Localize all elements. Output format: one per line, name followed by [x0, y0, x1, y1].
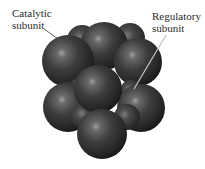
regulatory-label-line2: subunit [152, 22, 201, 34]
regulatory-label-line1: Regulatory [152, 10, 201, 22]
catalytic-label-line2: subunit [12, 19, 52, 31]
catalytic-subunit-front-center [74, 65, 122, 113]
catalytic-label-line1: Catalytic [12, 7, 52, 19]
catalytic-subunit-bottom [77, 109, 127, 159]
regulatory-subunit-label: Regulatory subunit [152, 10, 201, 34]
protein-model-diagram: Catalytic subunit Regulatory subunit [0, 0, 205, 169]
catalytic-subunit-label: Catalytic subunit [12, 7, 52, 31]
catalytic-subunit-top-right [114, 38, 162, 86]
